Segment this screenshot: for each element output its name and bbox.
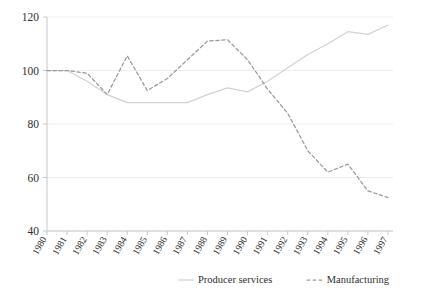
y-axis-label: 80 [28, 118, 40, 130]
legend-label-producer-services: Producer services [198, 274, 272, 285]
y-axis-label: 60 [28, 172, 40, 184]
chart-canvas: 120100806040 198019811982198319841985198… [0, 0, 440, 301]
legend-label-manufacturing: Manufacturing [327, 274, 390, 285]
line-chart: 120100806040 198019811982198319841985198… [0, 0, 440, 301]
y-axis-label: 120 [22, 11, 40, 23]
y-axis-label: 100 [22, 65, 40, 77]
y-axis-label: 40 [28, 225, 40, 237]
